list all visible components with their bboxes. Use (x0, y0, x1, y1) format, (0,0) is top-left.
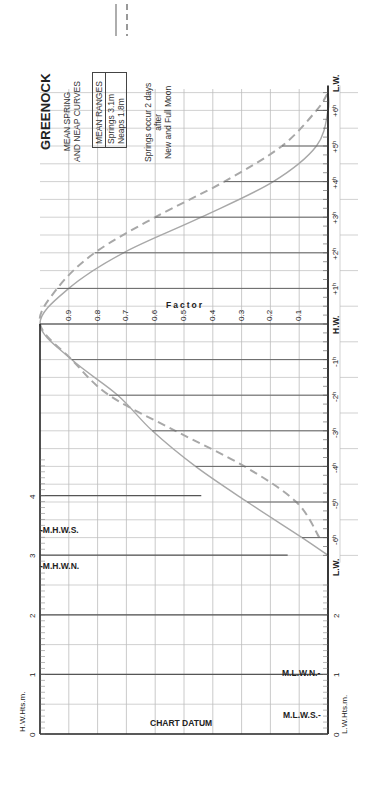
factor-tick-label: 0.5 (179, 310, 188, 321)
lw-heights-label: L.W.Hts.m. (340, 695, 349, 734)
mean-ranges-box: MEAN RANGES Springs 3.1m Neaps 1.8m (92, 72, 127, 148)
grid-lines (40, 85, 358, 734)
time-label: +4ʰ (331, 176, 340, 188)
time-label: -1ʰ (331, 356, 340, 366)
neaps-range: Neaps 1.8m (116, 73, 126, 147)
hw-height-tick: 0 (28, 733, 37, 737)
hw-height-tick: 1 (28, 673, 37, 677)
tidal-curve-diagram (0, 0, 377, 787)
time-label: L.W. (331, 74, 341, 91)
hw-height-tick: 2 (28, 613, 37, 617)
factor-tick-label: 0.6 (150, 310, 159, 321)
factor-tick-label: 0.9 (64, 310, 73, 321)
time-label: -5ʰ (331, 499, 340, 509)
time-label: +6ʰ (331, 105, 340, 117)
time-label: -3ʰ (331, 428, 340, 438)
chart-datum-label: CHART DATUM (150, 718, 212, 728)
time-label: -4ʰ (331, 463, 340, 473)
factor-tick-label: 0.3 (237, 310, 246, 321)
factor-tick-label: 0.1 (294, 310, 303, 321)
subtitle-line-2: AND NEAP CURVES (72, 81, 82, 162)
factor-tick-label: 0.7 (121, 310, 130, 321)
factor-tick-label: 0.8 (93, 310, 102, 321)
note-line-2: after (153, 83, 163, 162)
time-label: +5ʰ (331, 141, 340, 153)
note-line-3: New and Full Moon (163, 83, 173, 162)
time-label: L.W. (331, 559, 341, 576)
mlwn-label: M.L.W.N.- (282, 668, 320, 678)
hw-height-tick: 3 (28, 554, 37, 558)
lw-height-tick: 1 (332, 673, 341, 677)
factor-tick-label: 0.4 (208, 310, 217, 321)
note-line-1: Springs occur 2 days (143, 83, 153, 162)
location-title: GREENOCK (38, 73, 53, 150)
hw-height-tick: 4 (28, 494, 37, 498)
subtitle: MEAN SPRING AND NEAP CURVES (62, 81, 82, 162)
time-label: H.W. (331, 316, 341, 334)
time-label: +3ʰ (331, 212, 340, 224)
time-label: +2ʰ (331, 248, 340, 260)
lw-height-tick: 2 (332, 613, 341, 617)
time-label: -6ʰ (331, 534, 340, 544)
time-label: +1ʰ (331, 283, 340, 295)
hw-heights-label: H.W.Hts.m. (18, 692, 27, 732)
factor-tick-label: 0.2 (265, 310, 274, 321)
mhws-label: -M.H.W.S. (40, 525, 79, 535)
lw-height-tick: 0 (332, 733, 341, 737)
springs-note: Springs occur 2 days after New and Full … (143, 83, 173, 162)
mean-ranges-header: MEAN RANGES (93, 73, 106, 147)
factor-label: Factor (166, 300, 204, 310)
subtitle-line-1: MEAN SPRING (62, 81, 72, 162)
mhwn-label: -M.H.W.N. (40, 561, 79, 571)
time-label: -2ʰ (331, 392, 340, 402)
springs-range: Springs 3.1m (106, 73, 116, 147)
mlws-label: M.L.W.S.- (283, 710, 321, 720)
